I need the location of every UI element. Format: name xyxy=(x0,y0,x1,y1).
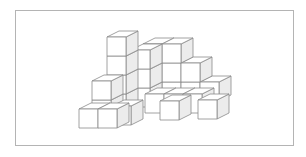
cube-front-face xyxy=(92,81,111,100)
cube-stack-diagram xyxy=(0,0,306,157)
cube-front-face xyxy=(162,44,181,63)
cube-front-face xyxy=(198,100,217,119)
cube-front-face xyxy=(181,63,200,82)
cube-front-face xyxy=(107,56,126,75)
cube-front-face xyxy=(79,109,98,128)
cube-front-face xyxy=(162,63,181,82)
cube-front-face xyxy=(160,101,179,120)
cube-front-face xyxy=(98,109,117,128)
cube-front-face xyxy=(107,37,126,56)
